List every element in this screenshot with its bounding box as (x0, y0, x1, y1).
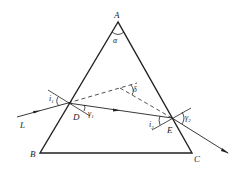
prism-diagram: A B C D E L α δ i1 γ1 i2 γ2 (0, 0, 245, 173)
label-i2: i2 (149, 120, 154, 130)
incident-ray (17, 103, 68, 117)
label-vertex-A: A (113, 10, 120, 20)
emergent-arrow-icon (221, 148, 229, 154)
dashed-extension-incident (68, 83, 137, 103)
label-vertex-B: B (30, 149, 36, 159)
label-point-E: E (166, 125, 173, 135)
angle-arc-gamma1 (84, 105, 85, 111)
emergent-ray (172, 118, 228, 153)
angle-arc-alpha (112, 32, 124, 35)
label-i1: i1 (49, 94, 54, 104)
label-point-D: D (72, 112, 80, 122)
label-delta: δ (133, 85, 137, 94)
label-gamma2: γ2 (185, 113, 191, 123)
label-alpha: α (113, 36, 118, 45)
angle-arc-gamma2 (182, 112, 184, 124)
angle-arc-i2 (159, 116, 160, 125)
label-gamma1: γ1 (88, 109, 94, 119)
label-vertex-C: C (194, 154, 201, 164)
incident-arrow-icon (33, 111, 40, 114)
label-ray-L: L (19, 120, 25, 130)
angle-arc-i1 (57, 97, 59, 106)
